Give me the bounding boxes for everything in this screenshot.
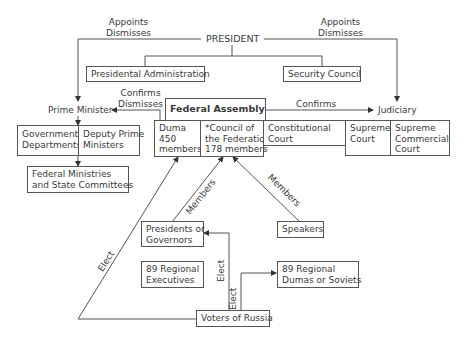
elect-label-dumas: Elect <box>228 288 239 310</box>
constitutional-court-line-2: Court <box>268 134 341 145</box>
dismisses-text: Dismisses <box>118 99 163 110</box>
regional-executives-line-2: Executives <box>146 275 199 286</box>
presidential-administration-box: Presidental Administration <box>86 66 205 82</box>
government-departments-box: Government Departments <box>17 125 79 156</box>
regional-executives-line-1: 89 Regional <box>146 264 199 275</box>
gov-dept-line-1: Government <box>22 129 74 140</box>
confirms-text: Confirms <box>118 88 163 99</box>
federal-ministries-line-2: and State Committees <box>32 180 124 191</box>
presidents-governors-line-2: Governors <box>146 235 199 246</box>
government-structure-diagram: Appoints Dismisses Appoints Dismisses PR… <box>0 0 464 337</box>
council-line-1: *Council of <box>205 123 259 134</box>
duma-text: Duma <box>159 123 196 134</box>
prime-minister-node: Prime Minister <box>48 105 113 116</box>
deputy-pm-line-2: Ministers <box>83 140 135 151</box>
supreme-court-box: Supreme Court <box>345 120 391 156</box>
supreme-commercial-court-box: Supreme Commercial Court <box>390 120 450 156</box>
deputy-prime-ministers-box: Deputy Prime Ministers <box>78 125 140 156</box>
supreme-court-line-2: Court <box>350 134 386 145</box>
presidents-governors-box: Presidents or Governors <box>141 221 204 247</box>
duma-members-text: members <box>159 144 196 155</box>
council-line-2: the Federation <box>205 134 259 145</box>
constitutional-court-box: Constitutional Court <box>263 120 346 146</box>
supreme-commercial-line-1: Supreme <box>395 123 445 134</box>
gov-dept-line-2: Departments <box>22 140 74 151</box>
supreme-commercial-line-3: Court <box>395 144 445 155</box>
dismisses-text: Dismisses <box>318 28 363 39</box>
council-of-federation-box: *Council of the Federation 178 members <box>200 120 264 157</box>
regional-executives-box: 89 Regional Executives <box>141 261 204 288</box>
elect-label-governors: Elect <box>216 260 227 282</box>
appoints-text: Appoints <box>106 17 151 28</box>
security-council-box: Security Council <box>283 66 361 82</box>
supreme-court-line-1: Supreme <box>350 123 386 134</box>
federal-ministries-line-1: Federal Ministries <box>32 169 124 180</box>
deputy-pm-line-1: Deputy Prime <box>83 129 135 140</box>
speakers-box: Speakers <box>277 221 324 238</box>
duma-box: Duma 450 members <box>154 120 201 157</box>
federal-ministries-box: Federal Ministries and State Committees <box>27 166 129 193</box>
judiciary-node: Judiciary <box>378 105 417 116</box>
council-members: 178 members <box>205 144 259 155</box>
voters-of-russia-box: Voters of Russia <box>196 310 270 327</box>
regional-dumas-line-1: 89 Regional <box>282 264 354 275</box>
supreme-commercial-line-2: Commercial <box>395 134 445 145</box>
confirms-label: Confirms <box>296 99 336 110</box>
appoints-text: Appoints <box>318 17 363 28</box>
appoints-dismisses-left-label: Appoints Dismisses <box>106 17 151 38</box>
federal-assembly-box: Federal Assembly <box>165 98 266 121</box>
presidents-governors-line-1: Presidents or <box>146 224 199 235</box>
president-node: PRESIDENT <box>206 34 259 45</box>
regional-dumas-box: 89 Regional Dumas or Soviets <box>277 261 359 288</box>
regional-dumas-line-2: Dumas or Soviets <box>282 275 354 286</box>
confirms-dismisses-label: Confirms Dismisses <box>118 88 163 109</box>
duma-count: 450 <box>159 134 196 145</box>
appoints-dismisses-right-label: Appoints Dismisses <box>318 17 363 38</box>
dismisses-text: Dismisses <box>106 28 151 39</box>
constitutional-court-line-1: Constitutional <box>268 123 341 134</box>
